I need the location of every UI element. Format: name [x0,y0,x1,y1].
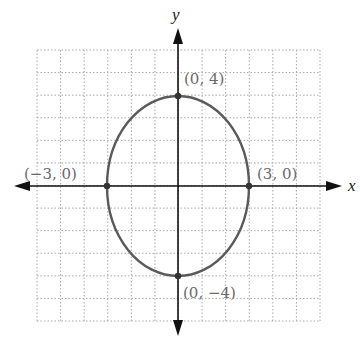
y-axis-top-arrow-icon [173,28,183,44]
covertex-left-point [104,183,110,189]
vertex-bottom-point [175,273,181,279]
y-axis-bottom-arrow-icon [173,320,183,336]
label-bottom-point: (0, −4) [183,284,236,302]
label-top-point: (0, 4) [184,70,224,88]
y-axis-label: y [170,5,180,24]
label-right-point: (3, 0) [257,165,297,183]
x-axis-label: x [347,176,356,195]
vertex-top-point [175,93,181,99]
covertex-right-point [246,183,252,189]
x-axis-right-arrow-icon [326,181,342,191]
ellipse-graph: x y (0, 4) (3, 0) (−3, 0) (0, −4) [0,0,360,338]
label-left-point: (−3, 0) [24,165,77,183]
